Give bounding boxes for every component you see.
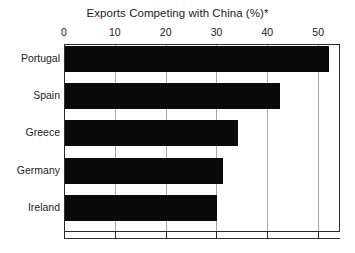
x-tick-label: 30 bbox=[211, 26, 223, 38]
x-tick-label: 10 bbox=[109, 26, 121, 38]
axis-baseline bbox=[64, 238, 340, 239]
tick-mark bbox=[64, 232, 65, 239]
tick-mark bbox=[267, 232, 268, 239]
bar bbox=[65, 83, 280, 109]
category-label: Germany bbox=[0, 164, 60, 176]
category-label: Spain bbox=[0, 89, 60, 101]
tick-mark bbox=[318, 232, 319, 239]
x-tick-label: 50 bbox=[312, 26, 324, 38]
gridline bbox=[318, 45, 319, 231]
category-label: Ireland bbox=[0, 201, 60, 213]
bar bbox=[65, 46, 329, 72]
category-label: Greece bbox=[0, 126, 60, 138]
bar-chart: Exports Competing with China (%)* 010203… bbox=[0, 0, 355, 253]
gridline bbox=[267, 45, 268, 231]
category-label: Portugal bbox=[0, 52, 60, 64]
x-tick-label: 20 bbox=[160, 26, 172, 38]
tick-mark bbox=[216, 232, 217, 239]
y-axis-category-labels: PortugalSpainGreeceGermanyIreland bbox=[0, 0, 60, 253]
tick-mark bbox=[115, 232, 116, 239]
x-axis-tick-marks bbox=[0, 232, 355, 246]
bar bbox=[65, 158, 223, 184]
tick-mark bbox=[166, 232, 167, 239]
bar bbox=[65, 195, 217, 221]
plot-area bbox=[64, 44, 340, 232]
bar bbox=[65, 120, 238, 146]
x-tick-label: 0 bbox=[61, 26, 67, 38]
x-tick-label: 40 bbox=[261, 26, 273, 38]
